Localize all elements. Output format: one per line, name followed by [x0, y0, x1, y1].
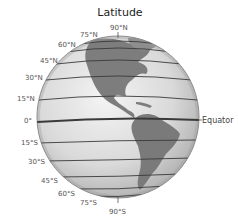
label-75n: 75°N: [80, 31, 98, 39]
label-30n: 30°N: [25, 74, 43, 82]
label-60n: 60°N: [58, 41, 76, 49]
label-45n: 45°N: [40, 57, 58, 65]
latitude-globe-diagram: 90°N 75°N 60°N 45°N 30°N 15°N 0° 15°S 30…: [0, 0, 238, 223]
label-0: 0°: [24, 117, 32, 125]
label-30s: 30°S: [28, 158, 45, 166]
label-45s: 45°S: [41, 177, 58, 185]
label-equator: Equator: [202, 116, 234, 125]
label-90n: 90°N: [110, 24, 128, 32]
label-90s: 90°S: [109, 208, 126, 216]
label-15s: 15°S: [21, 139, 38, 147]
label-15n: 15°N: [17, 95, 35, 103]
label-60s: 60°S: [58, 190, 75, 198]
label-75s: 75°S: [80, 199, 97, 207]
